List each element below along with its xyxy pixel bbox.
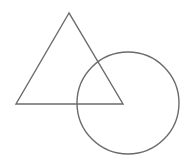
diagram-canvas xyxy=(0,0,191,163)
